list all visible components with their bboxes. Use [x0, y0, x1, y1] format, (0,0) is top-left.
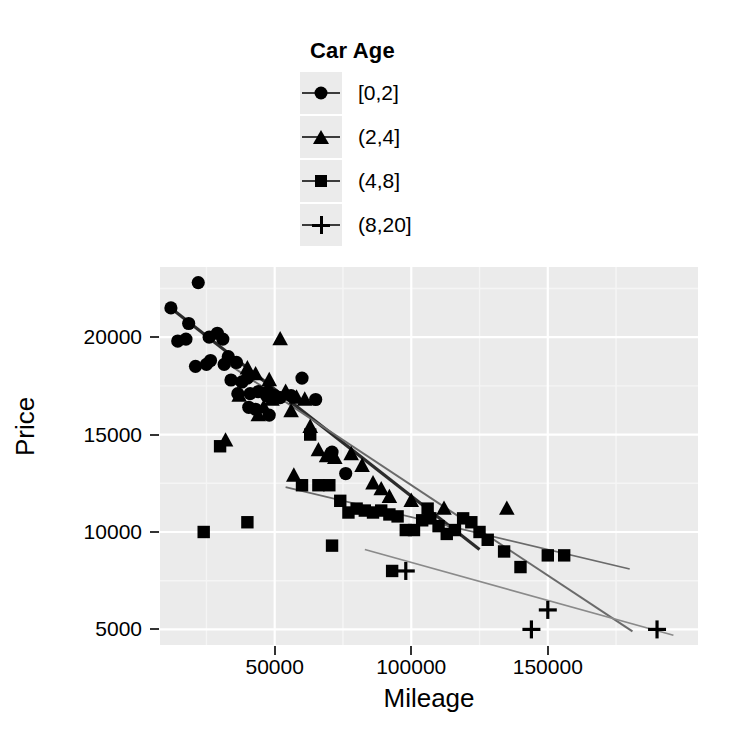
- circle-marker: [216, 332, 229, 345]
- square-marker: [214, 440, 226, 452]
- chart-figure: Car Age [0,2](2,4](4,8](8,20] 5000100001…: [0, 0, 734, 749]
- x-tick-label: 100000: [376, 655, 446, 679]
- y-tick-label: 20000: [84, 325, 142, 349]
- y-axis-tick-labels: 5000100001500020000: [0, 0, 142, 749]
- legend-item-label: [0,2]: [358, 81, 399, 105]
- minor-gridlines: [160, 267, 698, 645]
- y-tick-label: 5000: [95, 617, 142, 641]
- x-tick-mark: [547, 646, 549, 655]
- y-tick-label: 15000: [84, 423, 142, 447]
- major-gridlines: [160, 267, 698, 645]
- square-marker: [312, 479, 324, 491]
- y-tick-mark: [150, 531, 159, 533]
- square-marker: [386, 565, 398, 577]
- legend-item[interactable]: (4,8]: [300, 159, 490, 203]
- circle-marker: [192, 276, 205, 289]
- x-tick-label: 150000: [513, 655, 583, 679]
- legend-key-swatch: [300, 72, 342, 114]
- circle-marker: [295, 371, 308, 384]
- triangle-marker-glyph: [313, 130, 329, 144]
- plot-panel-wrapper: [160, 267, 698, 645]
- legend-items: [0,2](2,4](4,8](8,20]: [300, 71, 490, 247]
- square-marker-icon: [315, 175, 327, 187]
- circle-marker: [179, 332, 192, 345]
- x-tick-label: 50000: [245, 655, 303, 679]
- square-marker: [421, 502, 433, 514]
- circle-marker: [339, 467, 352, 480]
- y-axis-title: Price: [10, 397, 41, 456]
- square-marker: [498, 545, 510, 557]
- square-marker: [391, 510, 403, 522]
- chart-legend: Car Age [0,2](2,4](4,8](8,20]: [300, 38, 490, 247]
- legend-item[interactable]: [0,2]: [300, 71, 490, 115]
- triangle-marker-icon: [313, 130, 329, 144]
- legend-key-swatch: [300, 116, 342, 158]
- circle-marker-glyph: [315, 87, 328, 100]
- circle-marker: [182, 317, 195, 330]
- y-tick-label: 10000: [84, 520, 142, 544]
- regression-lines: [168, 306, 673, 635]
- square-marker: [326, 539, 338, 551]
- legend-item-label: (2,4]: [358, 125, 400, 149]
- triangle-marker: [499, 500, 515, 514]
- y-tick-mark: [150, 628, 159, 630]
- legend-item[interactable]: (2,4]: [300, 115, 490, 159]
- y-tick-mark: [150, 434, 159, 436]
- legend-title: Car Age: [300, 38, 490, 64]
- circle-marker: [200, 358, 213, 371]
- y-tick-mark: [150, 336, 159, 338]
- legend-item[interactable]: (8,20]: [300, 203, 490, 247]
- plus-marker-glyph: [312, 216, 330, 234]
- square-marker: [542, 549, 554, 561]
- square-marker-glyph: [315, 175, 327, 187]
- legend-item-label: (4,8]: [358, 169, 400, 193]
- plot-panel: [160, 267, 698, 645]
- square-marker: [514, 561, 526, 573]
- square-marker: [558, 549, 570, 561]
- square-marker: [334, 495, 346, 507]
- data-point-markers: [164, 276, 666, 638]
- x-tick-mark: [410, 646, 412, 655]
- legend-key-swatch: [300, 204, 342, 246]
- square-marker: [323, 479, 335, 491]
- square-marker: [304, 428, 316, 440]
- circle-marker: [164, 301, 177, 314]
- legend-item-label: (8,20]: [358, 213, 412, 237]
- circle-marker-icon: [315, 87, 328, 100]
- square-marker: [197, 526, 209, 538]
- x-axis-title: Mileage: [160, 683, 698, 714]
- square-marker: [241, 516, 253, 528]
- square-marker: [296, 479, 308, 491]
- legend-key-swatch: [300, 160, 342, 202]
- plus-marker-icon: [312, 216, 330, 234]
- x-tick-mark: [274, 646, 276, 655]
- square-marker: [482, 534, 494, 546]
- plot-canvas: [160, 267, 698, 645]
- circle-marker: [230, 356, 243, 369]
- square-marker: [449, 524, 461, 536]
